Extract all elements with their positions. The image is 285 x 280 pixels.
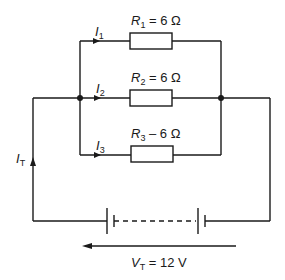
circuit-diagram: R1 = 6 Ω I1 R2 = 6 Ω I2 R3 – 6 Ω I3 IT V… <box>0 0 285 280</box>
label-r2: R2 = 6 Ω <box>131 71 181 87</box>
label-vt: VT = 12 V <box>131 256 187 272</box>
current-arrow-it <box>30 157 36 166</box>
branch-2 <box>33 90 270 106</box>
label-r1: R1 = 6 Ω <box>131 14 181 30</box>
battery <box>107 208 205 234</box>
voltage-arrow-head <box>82 243 92 249</box>
resistor-r2 <box>130 90 172 106</box>
label-r3: R3 – 6 Ω <box>131 127 180 143</box>
resistor-r1 <box>130 33 172 49</box>
junction-left <box>77 95 83 101</box>
label-i3: I3 <box>96 139 105 155</box>
label-i2: I2 <box>96 82 105 98</box>
junction-right <box>218 95 224 101</box>
resistor-r3 <box>131 146 173 162</box>
label-it: IT <box>16 152 25 168</box>
label-i1: I1 <box>95 25 104 41</box>
